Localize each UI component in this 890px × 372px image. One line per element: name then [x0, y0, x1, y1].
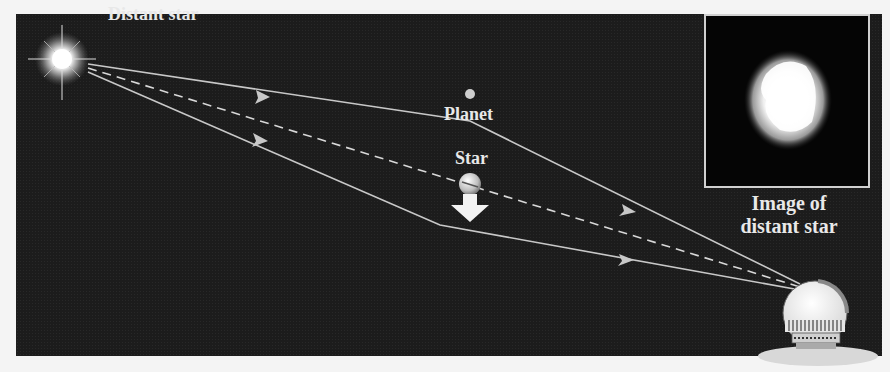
distant-star-label: Distant star [108, 4, 199, 25]
planet-label: Planet [444, 104, 493, 125]
inset-image-frame [704, 14, 870, 188]
image-caption-line2: distant star [700, 215, 878, 238]
motion-arrow-icon [451, 194, 489, 222]
distant-star-image [706, 16, 868, 186]
dashed-line-of-sight [88, 68, 800, 287]
arrowhead-icon [618, 254, 634, 266]
distant-star-icon [28, 25, 96, 100]
image-caption-line1: Image of [700, 192, 878, 215]
star-label: Star [455, 148, 488, 169]
arrowhead-icon [619, 204, 636, 216]
observatory-telescope-icon [758, 281, 878, 366]
arrowhead-icon [252, 133, 268, 147]
image-caption: Image of distant star [700, 192, 878, 238]
upper-light-ray [88, 64, 800, 284]
arrowhead-icon [255, 90, 270, 104]
planet-icon [465, 89, 475, 99]
